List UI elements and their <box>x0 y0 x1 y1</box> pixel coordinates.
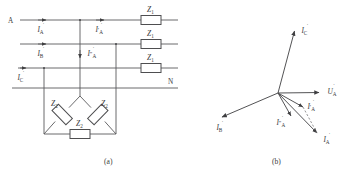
panel-a-circuit: Z1 Z1 Z1 A N ̇IA ̇IB ̇IC <box>8 5 178 166</box>
label-ib: ̇IB <box>36 47 44 59</box>
phasor-label-ia-prime: ̇I′A <box>306 100 315 112</box>
z1-box-phase-a <box>141 16 161 25</box>
phasor-label-ia: ̇IA <box>322 133 330 145</box>
z2-label-bottom: Z2 <box>76 119 83 129</box>
z1-label-phase-a: Z1 <box>147 5 154 15</box>
delta-right-leg-lower <box>105 122 116 135</box>
z1-label-phase-b: Z1 <box>147 29 154 39</box>
caption-b: (b) <box>272 157 281 166</box>
z2-label-left: Z2 <box>51 99 58 109</box>
phasor-label-ic: ̇IC <box>300 24 308 36</box>
phasor-label-ia-doubleprime: ̇I″A <box>275 116 285 128</box>
z1-box-phase-b <box>141 40 161 49</box>
junction-dot-c <box>43 67 45 69</box>
phasor-ib <box>222 93 278 117</box>
figure-container: Z1 Z1 Z1 A N ̇IA ̇IB ̇IC <box>0 0 356 179</box>
phasor-label-ua: ̇UA <box>327 84 336 96</box>
phasor-ic <box>278 31 295 93</box>
phasor-ua <box>278 93 319 94</box>
delta-left-leg-upper <box>69 96 80 108</box>
delta-right-leg-upper <box>80 96 91 108</box>
z1-label-phase-c: Z1 <box>147 53 154 63</box>
label-ia: ̇IA <box>36 23 44 35</box>
terminal-n-label: N <box>168 78 174 86</box>
junction-dot-b <box>115 43 117 45</box>
z2-box-bottom <box>70 130 90 139</box>
phasor-label-ib: ̇IB <box>215 121 223 133</box>
z1-box-phase-c <box>141 64 161 73</box>
terminal-a-label: A <box>8 17 14 25</box>
z2-label-right: Z2 <box>101 99 108 109</box>
junction-dot-a <box>79 19 81 21</box>
caption-a: (a) <box>104 157 113 166</box>
label-ic: ̇IC <box>16 71 24 83</box>
delta-left-leg-lower <box>44 122 55 135</box>
label-ia-doubleprime: ̇I″A <box>86 47 96 59</box>
label-ia-prime: ̇I′A <box>94 23 103 35</box>
panel-b-phasor-diagram: ̇UA ̇IC ̇IB ̇IA ̇I′A ̇I″A (b) <box>215 24 336 166</box>
